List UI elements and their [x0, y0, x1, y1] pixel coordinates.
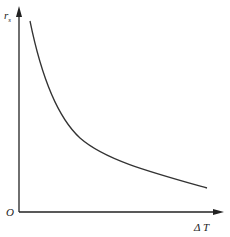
y-axis-arrow-icon [16, 6, 22, 17]
rs-curve [30, 21, 207, 188]
y-label-sub: s [8, 16, 11, 24]
plot-svg [0, 0, 230, 237]
y-axis-label: rs [4, 10, 11, 24]
chart-canvas: rs O Δ T [0, 0, 230, 237]
x-axis-label: Δ T [194, 222, 209, 233]
x-axis-arrow-icon [213, 209, 224, 215]
origin-label: O [6, 207, 14, 218]
